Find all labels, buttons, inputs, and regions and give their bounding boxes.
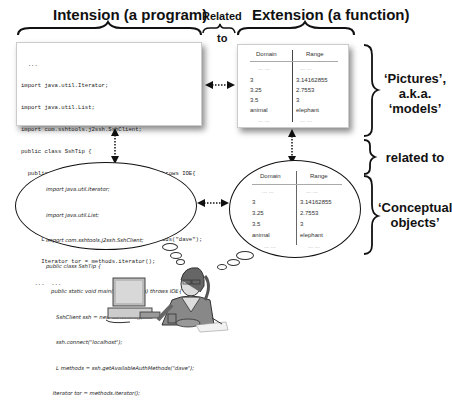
- person-at-computer-icon: [0, 0, 451, 340]
